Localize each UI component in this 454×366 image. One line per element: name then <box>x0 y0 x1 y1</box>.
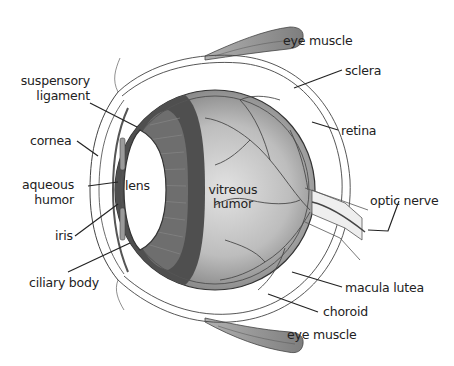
label-lens: lens <box>125 178 150 193</box>
label-aqueous-humor-line1: aqueous <box>16 177 74 192</box>
label-vitreous-humor-line1: vitreous <box>205 182 261 197</box>
label-suspensory-ligament-line2: ligament <box>20 88 90 103</box>
label-cornea: cornea <box>30 133 72 148</box>
label-suspensory-ligament-line1: suspensory <box>20 73 90 88</box>
label-optic-nerve: optic nerve <box>370 193 438 208</box>
label-retina: retina <box>341 123 376 138</box>
eye-diagram: eye muscle sclera suspensory ligament re… <box>0 0 454 366</box>
label-eye-muscle-top: eye muscle <box>283 33 352 48</box>
label-macula-lutea: macula lutea <box>345 280 424 295</box>
optic-nerve-shape <box>305 188 368 260</box>
iris-lower-shape <box>120 208 125 240</box>
label-sclera: sclera <box>345 63 381 78</box>
label-aqueous-humor-line2: humor <box>16 192 74 207</box>
label-vitreous-humor-line2: humor <box>205 196 261 211</box>
label-choroid: choroid <box>323 304 368 319</box>
iris-upper-shape <box>120 138 125 170</box>
label-ciliary-body: ciliary body <box>29 275 99 290</box>
label-iris: iris <box>55 228 73 243</box>
label-eye-muscle-bottom: eye muscle <box>287 327 356 342</box>
